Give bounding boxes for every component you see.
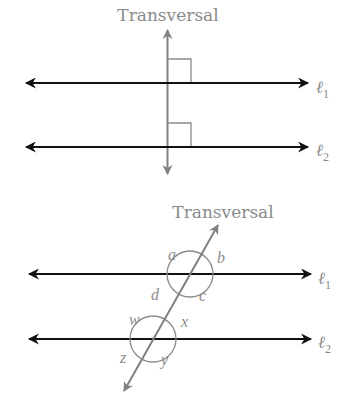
angle-label-y: y	[159, 351, 169, 369]
angle-label-w: w	[129, 311, 140, 328]
transversal-title-top: Transversal	[117, 5, 218, 25]
line-2-label-bottom: ℓ2	[318, 333, 331, 356]
line-1-label-top: ℓ1	[316, 78, 329, 101]
oblique-figure: Transversal a b c d w x y z ℓ1 ℓ2	[29, 202, 331, 391]
angle-label-z: z	[119, 349, 127, 366]
perpendicular-figure: Transversal ℓ1 ℓ2	[26, 5, 329, 174]
right-angle-mark-1	[168, 59, 191, 82]
angle-label-x: x	[180, 313, 188, 330]
angle-label-b: b	[217, 249, 225, 266]
angle-label-c: c	[199, 287, 206, 304]
line-1-label-bottom: ℓ1	[318, 269, 331, 292]
right-angle-mark-2	[168, 123, 191, 146]
transversal-diagrams: Transversal ℓ1 ℓ2 Transversal a b c d w …	[0, 0, 347, 405]
transversal-title-bottom: Transversal	[172, 202, 273, 222]
angle-label-d: d	[151, 286, 160, 303]
angle-label-a: a	[168, 246, 176, 263]
line-2-label-top: ℓ2	[316, 141, 329, 164]
